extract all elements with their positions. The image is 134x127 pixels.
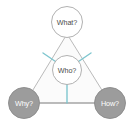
node-who[interactable]: Who? bbox=[53, 56, 82, 85]
node-label-how: How? bbox=[101, 99, 119, 108]
node-how[interactable]: How? bbox=[95, 88, 126, 119]
diagram-canvas: What?Who?Why?How? bbox=[0, 0, 134, 127]
node-what[interactable]: What? bbox=[52, 7, 83, 38]
node-label-who: Who? bbox=[58, 66, 76, 75]
question-triangle-diagram: What?Who?Why?How? bbox=[0, 0, 134, 127]
node-why[interactable]: Why? bbox=[9, 88, 40, 119]
node-label-what: What? bbox=[57, 18, 77, 27]
node-label-why: Why? bbox=[15, 99, 33, 108]
